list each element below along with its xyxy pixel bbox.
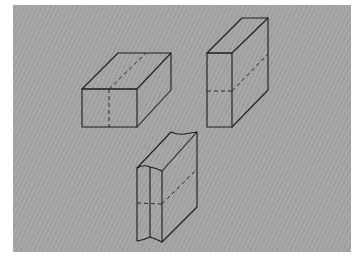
block-flat-side-face bbox=[137, 53, 171, 127]
block-grooved-section-side bbox=[162, 169, 197, 204]
block-flat-section-top bbox=[109, 53, 146, 89]
block-upright-side-face bbox=[232, 18, 268, 127]
block-flat-front-face bbox=[82, 89, 137, 127]
block-upright-section-side bbox=[232, 54, 268, 91]
block-flat bbox=[82, 53, 171, 127]
oblique-blocks-diagram bbox=[0, 0, 359, 258]
block-upright-top-face bbox=[207, 18, 268, 53]
block-grooved bbox=[137, 132, 197, 242]
block-grooved-top-face bbox=[137, 132, 197, 171]
block-upright-front-face bbox=[207, 53, 232, 127]
block-flat-top-face bbox=[82, 53, 171, 89]
block-upright bbox=[207, 18, 268, 127]
